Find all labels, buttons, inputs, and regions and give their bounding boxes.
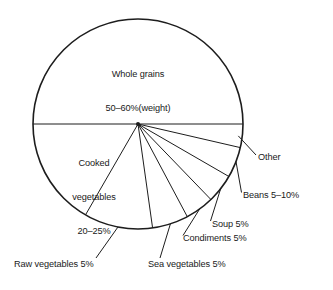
slice-label-condiments: Condiments 5% xyxy=(183,233,247,244)
slice-label-sea-vegetables: Sea vegetables 5% xyxy=(148,259,225,270)
slice-label-whole-grains-line2: 50–60%(weight) xyxy=(72,103,204,114)
slice-label-whole-grains-line1: Whole grains xyxy=(72,69,204,80)
slice-label-cooked-vegetables-line1: Cooked xyxy=(48,158,140,169)
slice-label-other: Other xyxy=(258,152,280,163)
slice-label-raw-vegetables: Raw vegetables 5% xyxy=(14,259,94,270)
slice-label-soup: Soup 5% xyxy=(212,219,249,230)
slice-label-cooked-vegetables-line2: vegetables xyxy=(48,192,140,203)
wedge-spoke-sea-vegetables-raw-vegetables xyxy=(138,124,153,228)
leader-line-beans xyxy=(236,162,242,193)
slice-label-beans: Beans 5–10% xyxy=(243,190,299,201)
slice-label-cooked-vegetables-line3: 20–25% xyxy=(48,226,140,237)
leader-line-sea-vegetables xyxy=(160,224,170,258)
slice-label-whole-grains: Whole grains 50–60%(weight) xyxy=(72,47,204,137)
pie-chart: Whole grains 50–60%(weight) Cooked veget… xyxy=(0,0,333,290)
slice-label-cooked-vegetables: Cooked vegetables 20–25% xyxy=(48,136,140,259)
leader-line-soup xyxy=(211,189,221,221)
